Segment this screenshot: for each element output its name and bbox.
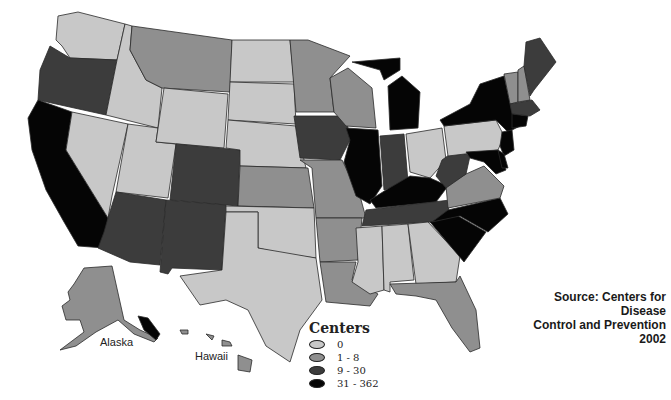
state-nd [230,40,294,82]
legend-item: 0 [309,338,379,351]
state-co [170,144,240,206]
state-nm [160,200,226,274]
source-line-2: Control and Prevention 2002 [520,318,666,346]
state-wy [156,88,228,148]
state-nj [500,130,514,156]
legend-item: 31 - 362 [309,377,379,390]
state-ar [316,218,362,262]
alaska-label: Alaska [100,336,133,348]
state-ks [238,166,314,208]
legend-label: 9 - 30 [337,365,366,376]
state-sd [228,82,296,124]
hawaii-label: Hawaii [195,350,228,362]
state-me [524,38,556,96]
legend-label: 0 [337,339,343,350]
legend-swatch-icon [309,379,325,388]
state-wa [56,12,125,60]
legend-title: Centers [309,320,379,336]
state-ct [512,114,528,128]
legend: Centers 0 1 - 8 9 - 30 31 - 362 [309,320,379,390]
legend-item: 1 - 8 [309,351,379,364]
legend-swatch-icon [309,366,325,375]
source-line-1: Source: Centers for Disease [520,290,666,318]
legend-swatch-icon [309,340,325,349]
legend-item: 9 - 30 [309,364,379,377]
source-note: Source: Centers for Disease Control and … [520,290,666,346]
state-fl [390,276,480,352]
legend-label: 1 - 8 [337,352,359,363]
legend-label: 31 - 362 [337,378,379,389]
legend-swatch-icon [309,353,325,362]
state-ia [294,116,350,160]
